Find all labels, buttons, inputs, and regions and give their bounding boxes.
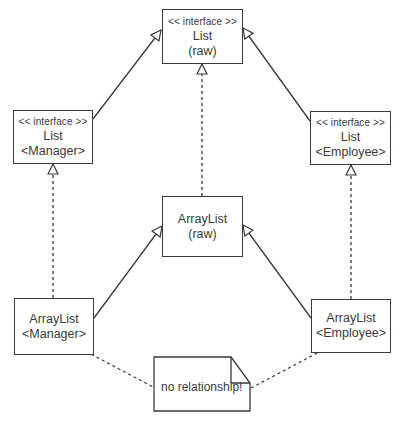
stereotype-label: << interface >> [168,15,237,29]
class-name: ArrayList [178,212,227,227]
class-param: (raw) [188,44,216,59]
class-name: List [193,29,212,44]
class-param: <Employee> [315,145,385,160]
edge-list-employee-to-list-raw [243,28,310,121]
class-list-employee: << interface >> List <Employee> [310,111,391,165]
class-param: (raw) [188,227,216,242]
edge-list-manager-to-list-raw [93,30,161,119]
edge-arraylist-manager-to-arraylist-raw [94,226,162,318]
class-list-raw: << interface >> List (raw) [162,9,243,64]
class-name: List [43,129,62,144]
note-text: no relationship! [161,380,242,394]
class-param: <Manager> [22,327,86,342]
class-name: ArrayList [29,312,78,327]
class-name: List [341,130,360,145]
class-param: <Manager> [21,144,85,159]
stereotype-label: << interface >> [19,115,88,129]
class-name: ArrayList [326,311,375,326]
class-arraylist-manager: ArrayList <Manager> [14,298,94,355]
class-list-manager: << interface >> List <Manager> [13,110,93,164]
class-param: <Employee> [316,326,386,341]
class-arraylist-employee: ArrayList <Employee> [311,299,391,353]
edge-arraylist-employee-to-arraylist-raw [243,225,311,318]
stereotype-label: << interface >> [316,116,385,130]
class-arraylist-raw: ArrayList (raw) [162,196,243,257]
